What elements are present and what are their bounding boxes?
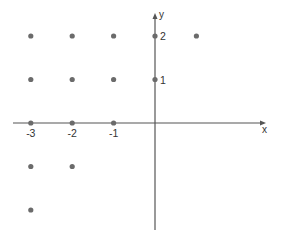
data-point <box>28 33 33 38</box>
y-axis-arrow-icon <box>153 13 158 19</box>
axes <box>13 13 266 230</box>
x-tick-label: -2 <box>68 127 77 139</box>
tick-labels: xy-3-2-121 <box>26 9 267 139</box>
data-point <box>152 33 157 38</box>
data-point <box>152 77 157 82</box>
x-tick-label: -3 <box>26 127 35 139</box>
data-point <box>111 77 116 82</box>
data-point <box>70 120 75 125</box>
data-point <box>28 77 33 82</box>
data-point <box>70 164 75 169</box>
data-point <box>70 33 75 38</box>
coordinate-plane: xy-3-2-121 <box>0 0 281 241</box>
data-point <box>28 120 33 125</box>
y-axis-label: y <box>159 9 164 20</box>
y-tick-label: 2 <box>160 30 166 42</box>
data-point <box>28 207 33 212</box>
y-tick-label: 1 <box>160 74 166 86</box>
data-point <box>111 120 116 125</box>
data-point <box>28 164 33 169</box>
x-tick-label: -1 <box>109 127 118 139</box>
x-axis-label: x <box>262 124 267 135</box>
data-point <box>111 33 116 38</box>
data-point <box>70 77 75 82</box>
data-point <box>194 33 199 38</box>
